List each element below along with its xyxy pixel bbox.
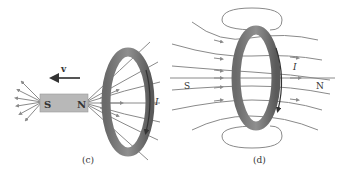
panel-c: S N v I (c) [16, 42, 160, 165]
north-pole-label: N [77, 99, 86, 110]
south-label-d: S [184, 81, 190, 91]
south-pole-label: S [44, 99, 51, 110]
bar-magnet: S N [40, 94, 88, 112]
north-label-d: N [316, 81, 324, 91]
panel-d: I S N (d) [170, 8, 335, 165]
current-label: I [154, 97, 159, 107]
panel-caption-d: (d) [253, 155, 266, 165]
velocity-arrow: v [54, 64, 80, 78]
conducting-loop [106, 52, 150, 152]
panel-caption: (c) [82, 155, 94, 165]
velocity-label: v [60, 64, 67, 74]
south-field-lines [16, 82, 42, 120]
figure: S N v I (c) [0, 0, 340, 172]
current-label-d: I [292, 62, 297, 72]
